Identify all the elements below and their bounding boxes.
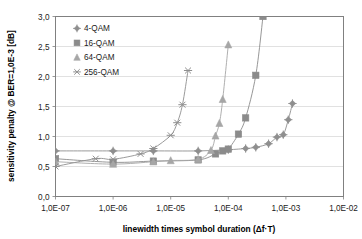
sensitivity-penalty-line-chart: 1,0E-071,0E-061,0E-051,0E-041,0E-031,0E-… — [0, 0, 362, 239]
y-tick-label: 2,0 — [38, 73, 50, 82]
legend-label: 256-QAM — [84, 68, 119, 77]
y-tick-label: 1,0 — [38, 133, 50, 142]
data-marker-square — [235, 131, 241, 137]
y-tick-label: 0,0 — [38, 193, 50, 202]
legend-label: 4-QAM — [84, 24, 110, 33]
data-marker-square — [242, 115, 248, 121]
x-tick-label: 1,0E-02 — [329, 204, 358, 213]
x-tick-label: 1,0E-04 — [214, 204, 243, 213]
y-axis-title: sensitivity penalty @ BER=1,0E-3 [dB] — [6, 30, 16, 182]
data-marker-square — [74, 40, 80, 46]
legend-label: 16-QAM — [84, 39, 115, 48]
data-marker-square — [253, 72, 259, 78]
x-tick-label: 1,0E-06 — [99, 204, 128, 213]
y-tick-label: 3,0 — [38, 13, 50, 22]
chart-container: 1,0E-071,0E-061,0E-051,0E-041,0E-031,0E-… — [0, 0, 362, 239]
y-tick-label: 1,5 — [38, 103, 50, 112]
x-tick-label: 1,0E-07 — [41, 204, 70, 213]
legend-label: 64-QAM — [84, 53, 115, 62]
y-tick-label: 0,5 — [38, 163, 50, 172]
data-marker-square — [225, 146, 231, 152]
y-tick-label: 2,5 — [38, 43, 50, 52]
x-axis-title: linewidth times symbol duration (Δf·T) — [123, 224, 276, 234]
x-tick-label: 1,0E-05 — [156, 204, 185, 213]
x-tick-label: 1,0E-03 — [272, 204, 301, 213]
